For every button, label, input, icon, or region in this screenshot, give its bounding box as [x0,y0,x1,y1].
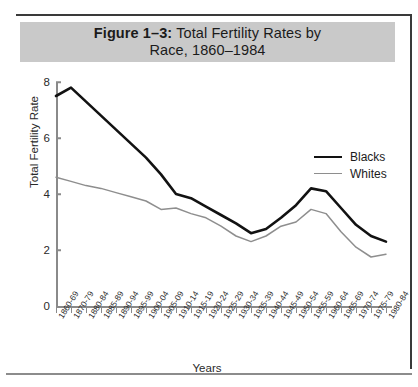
legend-entry-whites: Whites [314,165,387,182]
legend-label-whites: Whites [350,167,387,181]
chart-legend: Blacks Whites [314,148,387,182]
legend-label-blacks: Blacks [350,150,385,164]
figure-title-line2: Race, 1860–1984 [150,42,266,58]
x-axis-label: Years [22,362,392,374]
series-line-whites [56,177,386,257]
figure-title-line1: Total Fertility Rates by [176,25,321,41]
figure-title-banner: Figure 1–3: Total Fertility Rates by Rac… [20,22,395,62]
figure-page: Figure 1–3: Total Fertility Rates by Rac… [0,0,418,387]
frame-top-rule [16,14,412,16]
figure-number: Figure 1–3: [94,25,172,41]
figure-title-text: Figure 1–3: Total Fertility Rates by Rac… [94,25,321,60]
legend-line-swatch-blacks [314,156,342,158]
frame-right-rule [410,14,412,369]
legend-entry-blacks: Blacks [314,148,387,165]
legend-line-swatch-whites [314,173,342,174]
plot-area: Total Fertility Rate Years 02468 1860-69… [22,70,392,312]
series-lines [22,70,392,312]
